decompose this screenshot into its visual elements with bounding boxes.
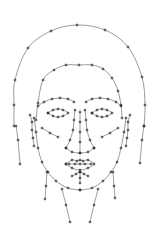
left-ear-landmark xyxy=(29,114,32,117)
chin-center-landmark xyxy=(79,171,82,174)
mouth-outer-landmark xyxy=(87,159,90,162)
mouth-outer-landmark xyxy=(87,167,90,170)
neck-right-outer-landmark xyxy=(143,125,146,128)
chin-landmark xyxy=(83,173,86,176)
left-ear-landmark xyxy=(32,137,35,140)
neck-right-inner-landmark xyxy=(97,188,100,191)
left-brow-landmark xyxy=(59,97,62,100)
nose-center-landmark xyxy=(79,121,82,124)
mouth-outer-landmark xyxy=(93,163,96,166)
neck-right-inner-landmark xyxy=(93,204,96,207)
nose-center-landmark xyxy=(79,111,82,114)
mouth-outer-landmark xyxy=(71,167,74,170)
neck-left-inner-landmark xyxy=(65,204,68,207)
mouth-outer-landmark xyxy=(76,160,79,163)
right-ear-landmark xyxy=(127,129,130,132)
mouth-inner-landmark xyxy=(84,163,87,166)
right-brow-landmark xyxy=(115,101,118,104)
jaw-left-landmark xyxy=(35,131,38,134)
nose-bridge-left-landmark xyxy=(74,109,77,112)
neck-right-outer-landmark xyxy=(141,139,144,142)
hairline-landmark xyxy=(78,64,81,67)
head-outline-landmark xyxy=(50,30,53,33)
chin-landmark xyxy=(75,173,78,176)
hairline-landmark xyxy=(91,64,94,67)
right-eye-landmark xyxy=(101,108,104,111)
nose-bridge-right-landmark xyxy=(86,129,89,132)
nose-center-landmark xyxy=(79,141,82,144)
face-landmark-diagram xyxy=(0,0,160,242)
head-outline-landmark xyxy=(76,24,79,27)
mouth-outer-landmark xyxy=(82,160,85,163)
head-outline-landmark xyxy=(144,104,147,107)
right-eye-landmark xyxy=(101,116,104,119)
left-eye-landmark xyxy=(57,116,60,119)
head-outline-landmark xyxy=(104,29,107,32)
left-eye-landmark xyxy=(62,109,65,112)
neck-left-outer-landmark xyxy=(17,139,20,142)
mouth-outer-landmark xyxy=(79,159,82,162)
chin-center-landmark xyxy=(79,177,82,180)
right-ear-landmark xyxy=(126,137,129,140)
right-eye-landmark xyxy=(96,115,99,118)
left-eye-landmark xyxy=(52,115,55,118)
left-brow-landmark xyxy=(51,98,54,101)
neck-left-outer-landmark xyxy=(19,163,22,166)
nose-bridge-left-landmark xyxy=(73,119,76,122)
left-cheek-landmark xyxy=(57,136,60,139)
neck-left-outer-curve xyxy=(16,126,20,164)
jaw-right-landmark xyxy=(79,189,82,192)
nose-bridge-right-landmark xyxy=(89,139,92,142)
jaw-right-landmark xyxy=(123,131,126,134)
right-eye-landmark xyxy=(106,109,109,112)
jaw-right-landmark xyxy=(120,147,123,150)
left-eye-landmark xyxy=(62,115,65,118)
left-brow-landmark xyxy=(73,101,76,104)
nose-center-landmark xyxy=(79,131,82,134)
neck-right-mid-landmark xyxy=(114,197,117,200)
right-cheek-landmark xyxy=(101,136,104,139)
chin-center-landmark xyxy=(79,182,82,185)
right-eye-landmark xyxy=(106,115,109,118)
hairline-landmark xyxy=(53,69,56,72)
hairline-landmark xyxy=(35,119,38,122)
mouth-inner-landmark xyxy=(68,163,71,166)
right-brow-landmark xyxy=(91,98,94,101)
right-cheek-landmark xyxy=(109,132,112,135)
chin-landmark xyxy=(71,175,74,178)
neck-left-inner-landmark xyxy=(61,188,64,191)
hairline-landmark xyxy=(37,102,40,105)
nose-bridge-right-curve xyxy=(85,110,94,148)
right-ear-landmark xyxy=(127,121,130,124)
jaw-left-landmark xyxy=(37,147,40,150)
mouth-inner-landmark xyxy=(79,163,82,166)
hairline-landmark xyxy=(42,79,45,82)
right-brow-landmark xyxy=(99,97,102,100)
neck-left-inner-landmark xyxy=(69,221,72,224)
jaw-right-landmark xyxy=(91,187,94,190)
head-outline-curve xyxy=(14,25,145,126)
right-brow-landmark xyxy=(85,101,88,104)
mouth-outer-landmark xyxy=(71,159,74,162)
jaw-left-landmark xyxy=(41,161,44,164)
left-eye-landmark xyxy=(52,109,55,112)
head-outline-landmark xyxy=(141,76,144,79)
neck-left-outer-landmark xyxy=(15,125,18,128)
nose-bridge-left-landmark xyxy=(72,129,75,132)
nose-bridge-right-landmark xyxy=(85,119,88,122)
jaw-right-landmark xyxy=(125,117,128,120)
nose-bridge-left-landmark xyxy=(69,139,72,142)
jaw-left-landmark xyxy=(67,187,70,190)
landmark-lines xyxy=(14,25,145,222)
neck-right-mid-landmark xyxy=(113,185,116,188)
left-brow-landmark xyxy=(67,98,70,101)
mouth-inner-landmark xyxy=(90,163,93,166)
hairline-landmark xyxy=(117,90,120,93)
neck-right-inner-landmark xyxy=(89,221,92,224)
right-ear-landmark xyxy=(129,114,132,117)
hairline-landmark xyxy=(65,64,68,67)
left-cheek-landmark xyxy=(49,132,52,135)
left-ear-landmark xyxy=(33,145,36,148)
nose-base-landmark xyxy=(87,151,90,154)
hairline-landmark xyxy=(121,117,124,120)
